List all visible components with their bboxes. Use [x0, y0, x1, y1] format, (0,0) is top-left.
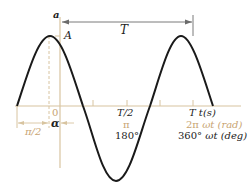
period-label: T [120, 24, 128, 36]
rad-unit: ωt (rad) [202, 119, 242, 130]
period-arrowhead-right [185, 20, 192, 25]
full-period-time-label: T t(s) [189, 108, 216, 118]
time-unit: t(s) [199, 107, 216, 118]
quarter-period-label: π/2 [25, 127, 41, 137]
half-period-deg-label: 180° [115, 131, 139, 141]
period-arrowhead-left [62, 20, 69, 25]
alpha-arrowhead [61, 121, 67, 125]
half-period-rad-label: π [123, 120, 130, 130]
full-period-symbol: T [189, 107, 196, 118]
amplitude-label: A [64, 30, 72, 41]
full-period-rad-value: 2π [186, 119, 199, 130]
deg-unit: ωt (deg) [205, 130, 247, 141]
full-period-rad-label: 2π ωt (rad) [186, 120, 242, 130]
quarter-arrowhead-left [18, 121, 24, 125]
quarter-arrowhead-right [42, 121, 48, 125]
half-period-time-label: T/2 [117, 108, 133, 118]
phase-angle-label: α [51, 118, 59, 129]
full-period-deg-label: 360° ωt (deg) [178, 131, 247, 141]
sine-curve [17, 36, 213, 181]
vertical-axis-label: a [53, 10, 59, 20]
sinusoid-diagram: a A T 0 π/2 α T/2 π 180° T t(s) 2π ωt (r… [0, 0, 252, 192]
full-period-deg-value: 360° [178, 130, 202, 141]
